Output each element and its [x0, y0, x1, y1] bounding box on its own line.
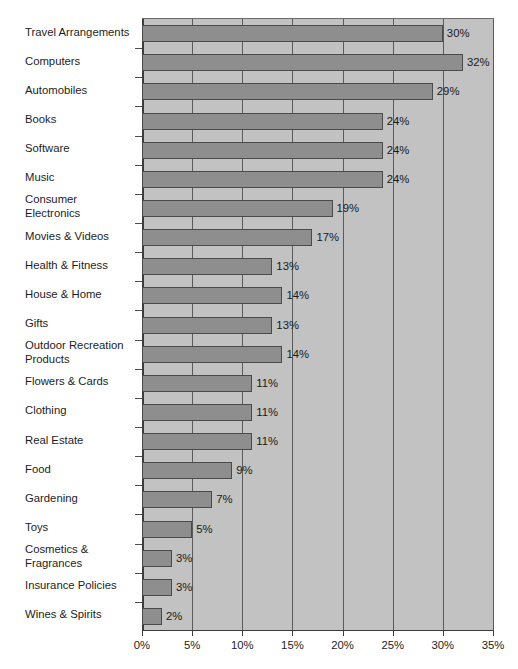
x-axis-tick: [242, 630, 243, 636]
bar-value-label: 30%: [447, 25, 470, 42]
x-axis-tick: [142, 630, 143, 636]
category-label: Cosmetics & Fragrances: [25, 542, 143, 570]
category-label: Wines & Spirits: [25, 607, 143, 621]
category-label: Travel Arrangements: [25, 25, 143, 39]
bar: [142, 317, 272, 334]
category-label: Outdoor Recreation Products: [25, 338, 143, 366]
plot-area: 30%32%29%24%24%24%19%17%13%14%13%14%11%1…: [142, 18, 494, 631]
x-axis-tick: [443, 630, 444, 636]
x-axis-tick-label: 15%: [281, 638, 304, 652]
category-label: Gardening: [25, 491, 143, 505]
bar: [142, 375, 252, 392]
x-axis-ticks: [142, 630, 494, 636]
y-axis-tick: [135, 281, 142, 282]
bar: [142, 113, 383, 130]
bar-value-label: 11%: [256, 404, 278, 421]
bar-value-label: 13%: [276, 317, 299, 334]
category-label: Real Estate: [25, 433, 143, 447]
category-label: Flowers & Cards: [25, 374, 143, 388]
bar-value-label: 24%: [387, 171, 410, 188]
category-label: House & Home: [25, 287, 143, 301]
category-label: Automobiles: [25, 83, 143, 97]
bar: [142, 462, 232, 479]
x-axis-tick: [393, 630, 394, 636]
category-label: Music: [25, 170, 143, 184]
category-label: Toys: [25, 520, 143, 534]
y-axis-tick: [135, 573, 142, 574]
y-axis-tick: [135, 77, 142, 78]
bar-value-label: 14%: [286, 287, 309, 304]
x-axis-tick-label: 5%: [184, 638, 200, 652]
bar: [142, 433, 252, 450]
x-axis-tick-label: 0%: [134, 638, 150, 652]
bar: [142, 83, 433, 100]
bar: [142, 229, 312, 246]
gridline-35pct: [493, 19, 494, 631]
x-axis-tick: [343, 630, 344, 636]
y-axis-tick: [135, 340, 142, 341]
bar-value-label: 5%: [196, 521, 212, 538]
bar-value-label: 9%: [236, 462, 252, 479]
bar-value-label: 19%: [337, 200, 360, 217]
bar: [142, 142, 383, 159]
bar-value-label: 3%: [176, 550, 192, 567]
bar-value-label: 32%: [467, 54, 490, 71]
bar: [142, 287, 282, 304]
y-axis-tick: [135, 485, 142, 486]
bar-value-label: 2%: [166, 608, 182, 625]
bar: [142, 579, 172, 596]
y-axis-tick: [135, 544, 142, 545]
bar: [142, 25, 443, 42]
category-label-column: Travel ArrangementsComputersAutomobilesB…: [0, 0, 142, 669]
bar: [142, 54, 463, 71]
category-label: Clothing: [25, 403, 143, 417]
y-axis-tick: [135, 369, 142, 370]
y-axis-tick: [135, 602, 142, 603]
bar: [142, 608, 162, 625]
y-axis-tick: [135, 252, 142, 253]
bar-value-label: 17%: [316, 229, 339, 246]
bar-value-label: 11%: [256, 375, 278, 392]
bar: [142, 404, 252, 421]
bar: [142, 550, 172, 567]
y-axis-tick: [135, 398, 142, 399]
x-axis-tick: [192, 630, 193, 636]
bar: [142, 258, 272, 275]
y-axis-tick: [135, 106, 142, 107]
bar: [142, 200, 333, 217]
category-label: Consumer Electronics: [25, 192, 143, 220]
category-label: Health & Fitness: [25, 258, 143, 272]
bar-chart: Travel ArrangementsComputersAutomobilesB…: [0, 0, 518, 669]
bar: [142, 491, 212, 508]
y-axis-tick: [135, 165, 142, 166]
bar: [142, 171, 383, 188]
x-axis-tick-label: 20%: [331, 638, 354, 652]
y-axis-tick: [135, 310, 142, 311]
category-label: Insurance Policies: [25, 578, 143, 592]
category-label: Food: [25, 462, 143, 476]
category-label: Computers: [25, 54, 143, 68]
x-axis-tick-labels: 0%5%10%15%20%25%30%35%: [142, 638, 494, 656]
x-axis-tick-label: 25%: [381, 638, 404, 652]
category-label: Movies & Videos: [25, 229, 143, 243]
bar-value-label: 7%: [216, 491, 232, 508]
y-axis-tick: [135, 48, 142, 49]
y-axis-tick: [135, 194, 142, 195]
bar: [142, 346, 282, 363]
bars-layer: 30%32%29%24%24%24%19%17%13%14%13%14%11%1…: [142, 19, 493, 631]
bar-value-label: 24%: [387, 113, 410, 130]
y-axis-tick: [135, 514, 142, 515]
category-label: Software: [25, 141, 143, 155]
bar-value-label: 3%: [176, 579, 192, 596]
x-axis-tick: [493, 630, 494, 636]
bar-value-label: 13%: [276, 258, 299, 275]
y-axis-tick: [135, 456, 142, 457]
bar-value-label: 24%: [387, 142, 410, 159]
x-axis-tick: [292, 630, 293, 636]
category-label: Books: [25, 112, 143, 126]
bar: [142, 521, 192, 538]
category-label: Gifts: [25, 316, 143, 330]
y-axis-tick: [135, 223, 142, 224]
bar-value-label: 11%: [256, 433, 278, 450]
x-axis-tick-label: 30%: [432, 638, 455, 652]
